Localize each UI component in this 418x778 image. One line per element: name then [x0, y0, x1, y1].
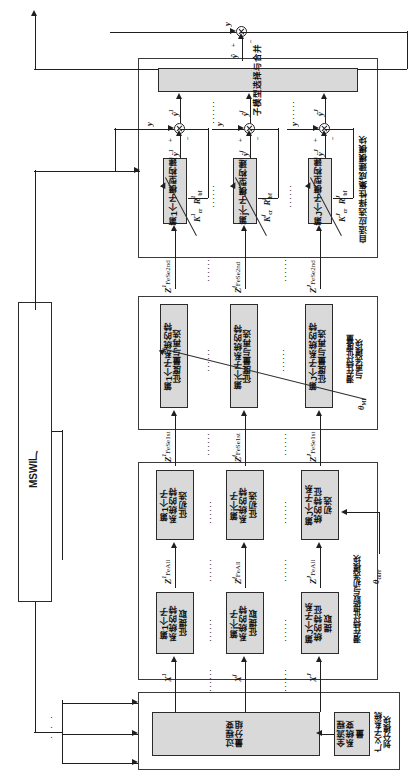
sign-minus-sub-2: − [254, 131, 262, 140]
signal-label-yhat-total: ŷ [230, 44, 240, 58]
block-label-extract-1: 第1个子 系统的特 征提取 [156, 592, 194, 654]
wire-x-1 [175, 660, 176, 712]
arrowhead-x-1 [171, 656, 177, 662]
block-label-preselect-1: 第1个子 系统的特 征初选 [156, 470, 194, 540]
signal-label-z1st-3: ZJFeSe1st [306, 424, 320, 462]
param-label-theta-mi: θMI [357, 382, 369, 410]
signal-label-x-2: Xj [231, 664, 243, 682]
ellipsis-zall-2: ······ [280, 552, 290, 582]
wire-fb-sub-3-top [325, 129, 353, 130]
arrowhead-feed-2 [132, 730, 138, 736]
ellipsis-preselect-2: ······ [280, 490, 290, 524]
signal-label-z1st-2: ZjFeSe1st [231, 424, 245, 462]
ellipsis-submodel-4: ······ [285, 178, 295, 208]
wire-allvars-to-grouping [320, 734, 334, 735]
wire-bottombus-feed-1 [62, 703, 138, 704]
block-label-preselect-3: 第J个子系 统的特征 初选 [301, 470, 339, 540]
arrowhead-y-true-sub-2 [238, 125, 244, 131]
ellipsis-extract-1: ······ [205, 608, 215, 642]
sign-minus-sub-1: − [184, 131, 192, 140]
block-label-preselect-2: 第j个子 系统的特 征初选 [226, 470, 264, 540]
signal-label-z2nd-1: Z1FeSe2nd [161, 255, 175, 293]
signal-label-y-true-sub-1: y [145, 114, 155, 126]
signal-label-zall-3: ZJFeAll [306, 552, 320, 584]
ellipsis-submodel-1: ······ [208, 98, 218, 124]
ellipsis-z1st-2: ······ [280, 424, 290, 456]
arrowhead-z-to-submodel-1 [171, 225, 177, 231]
module-label-latent-extract: 潜在特征提取与初选模块 [352, 540, 366, 658]
wire-plant-tap-h [52, 431, 62, 432]
module-label-subsystem-division: 广义子系统 划分模块 [372, 700, 396, 764]
block-label-remeasure-2: 第j个子系统的特 征度量与再选 [230, 304, 258, 408]
arrowhead-theta-corr [341, 509, 347, 515]
block-label-process-var-grouping: 过程变 量分组 [152, 712, 320, 756]
wire-left-bus-up [35, 170, 36, 310]
wire-branch-riser [115, 128, 116, 171]
arrowhead-err-sub-3 [321, 130, 327, 136]
arrowhead-feed-1 [132, 699, 138, 705]
diagram-canvas: 自适应选择性集成建模模块 潜在特征度量 与再选模块 潜在特征提取与初选模块 广义… [0, 0, 418, 778]
ellipsis-remeasure-1: ······ [203, 332, 213, 372]
signal-label-yhat-sub-3: ŷJ [313, 100, 323, 116]
ellipsis-submodel-3: ······ [208, 178, 218, 208]
signal-label-x-3: XJ [306, 664, 318, 682]
wire-y-true-to-sum [110, 32, 236, 33]
arrowhead-z1st-2 [241, 410, 247, 416]
wire-right-edge-down [407, 31, 408, 69]
wire-fb-sub-2-top [250, 129, 278, 130]
arrowhead-left-edge-up [31, 10, 37, 16]
wire-bottombus-v [62, 700, 63, 764]
arrowhead-yhat-sub-2 [246, 93, 252, 99]
wire-branch-to-sums [114, 129, 142, 130]
signal-label-err-sub-2: ÿj [238, 140, 248, 156]
arrowhead-y-true-to-sum [230, 28, 236, 34]
signal-label-z2nd-2: ZjFeSe2nd [231, 255, 245, 293]
wire-yhat-total [242, 37, 243, 61]
arrowhead-yhat-total [238, 33, 244, 39]
signal-label-y-true-top: y [223, 14, 233, 26]
module-label-ensemble: 自适应选择性集成建模模块 [358, 130, 372, 248]
wire-fb-sub-3-side [353, 128, 354, 198]
arrowhead-err-sub-2 [246, 130, 252, 136]
wire-left-edge-up [35, 14, 36, 69]
ellipsis-z2nd-1: ······ [203, 252, 213, 282]
ellipsis-submodel-2: ······ [288, 98, 298, 124]
block-label-remeasure-1: 第1个子系统的特 征度量与再选 [160, 304, 188, 408]
wire-plant-to-bottombus [34, 732, 62, 733]
block-label-remeasure-3: 第J个子系统的特 征度量与再选 [305, 304, 333, 408]
param-label-theta-corr: θcorr [372, 552, 384, 584]
wire-theta-corr [379, 512, 380, 554]
wire-theta-corr-h [345, 512, 379, 513]
block-label-all-process-vars: 全流程 系统变 量 [334, 712, 370, 756]
arrowhead-x-3 [316, 656, 322, 662]
signal-label-yhat-sub-2: ŷj [238, 100, 248, 116]
signal-label-err-sub-1: ÿ1 [168, 140, 178, 156]
arrowhead-zall-1 [171, 542, 177, 548]
wire-fb-sub-1-top [180, 129, 208, 130]
arrowhead-err-sub-1 [176, 130, 182, 136]
arrowhead-z-to-submodel-3 [316, 225, 322, 231]
ellipsis-bottom-feeds: ··· [50, 712, 55, 742]
arrowhead-z1st-1 [171, 410, 177, 416]
signal-label-z2nd-3: ZJFeSe2nd [306, 255, 320, 293]
wire-fb-sub-2-side [278, 128, 279, 198]
signal-label-x-1: X1 [161, 664, 173, 682]
signal-label-err-sub-3: ÿJ [313, 140, 323, 156]
arrowhead-zall-2 [241, 542, 247, 548]
wire-bottombus-feed-3 [62, 763, 138, 764]
ellipsis-preselect-1: ······ [205, 490, 215, 524]
wire-x-2 [245, 660, 246, 712]
signal-label-yhat-sub-1: ŷ1 [168, 100, 178, 116]
ellipsis-z2nd-2: ······ [280, 252, 290, 282]
block-label-extract-3: 第J个子系 统的特征 提取 [301, 592, 339, 654]
arrowhead-zall-3 [316, 542, 322, 548]
wire-plant-tap-v [62, 430, 63, 560]
arrowhead-z-to-submodel-2 [241, 225, 247, 231]
arrowhead-feed-3 [132, 759, 138, 765]
wire-left-bus-to-branch [34, 171, 140, 172]
arrowhead-y-true-sub-1 [168, 125, 174, 131]
sign-minus-sub-3: − [329, 131, 337, 140]
arrowhead-allvars-to-grouping [316, 730, 322, 736]
ellipsis-z1st-1: ······ [203, 424, 213, 456]
signal-label-zall-1: Z1FeAll [161, 552, 175, 584]
